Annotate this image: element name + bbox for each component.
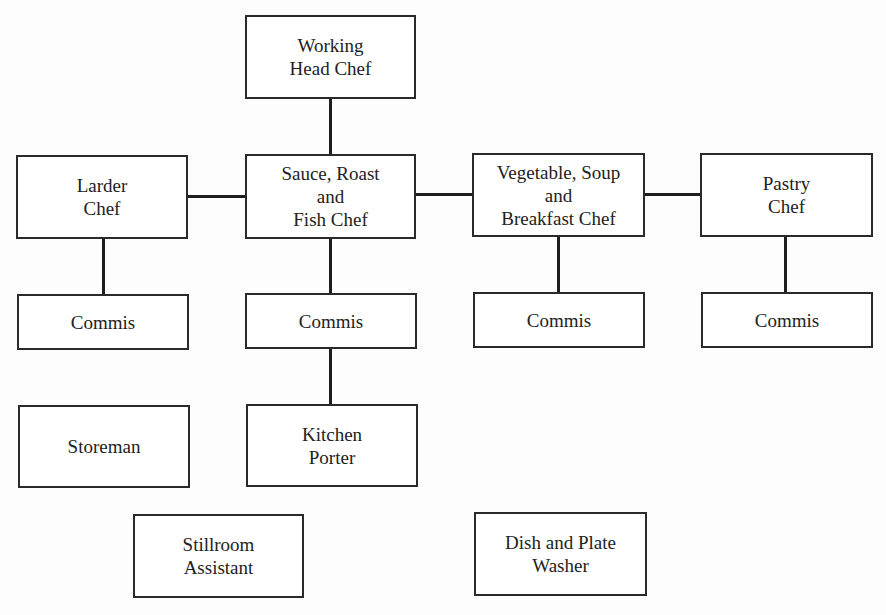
- connector-commis-to-kitchen-porter: [329, 348, 332, 405]
- connector-larder-to-sauce: [187, 195, 246, 198]
- node-label: Pastry Chef: [763, 172, 811, 218]
- node-commis-pastry: Commis: [701, 292, 873, 348]
- node-label: Commis: [71, 311, 135, 334]
- node-label: Storeman: [68, 435, 141, 458]
- kitchen-brigade-org-chart: Working Head Chef Larder Chef Sauce, Roa…: [0, 0, 886, 615]
- node-label: Working Head Chef: [290, 34, 372, 80]
- node-larder-chef: Larder Chef: [16, 155, 188, 239]
- node-label: Vegetable, Soup and Breakfast Chef: [497, 161, 620, 230]
- node-stillroom-assistant: Stillroom Assistant: [133, 514, 304, 598]
- node-label: Larder Chef: [77, 174, 128, 220]
- connector-pastry-to-commis: [784, 236, 787, 293]
- node-kitchen-porter: Kitchen Porter: [246, 404, 418, 487]
- node-dish-plate-washer: Dish and Plate Washer: [474, 512, 647, 596]
- connector-sauce-to-commis: [329, 238, 332, 294]
- connector-vegetable-to-commis: [557, 236, 560, 293]
- node-storeman: Storeman: [18, 405, 190, 488]
- connector-sauce-to-vegetable: [415, 193, 473, 196]
- connector-vegetable-to-pastry: [644, 193, 701, 196]
- node-sauce-roast-fish-chef: Sauce, Roast and Fish Chef: [245, 154, 416, 239]
- connector-larder-to-commis: [102, 238, 105, 295]
- node-label: Stillroom Assistant: [183, 533, 255, 579]
- node-commis-sauce: Commis: [245, 293, 417, 349]
- node-label: Commis: [527, 309, 591, 332]
- node-label: Commis: [299, 310, 363, 333]
- node-working-head-chef: Working Head Chef: [245, 15, 416, 99]
- node-label: Commis: [755, 309, 819, 332]
- connector-head-to-sauce: [329, 98, 332, 155]
- node-commis-larder: Commis: [17, 294, 189, 350]
- node-label: Dish and Plate Washer: [505, 531, 616, 577]
- node-pastry-chef: Pastry Chef: [700, 153, 873, 237]
- node-label: Kitchen Porter: [302, 423, 362, 469]
- node-label: Sauce, Roast and Fish Chef: [281, 162, 379, 231]
- node-commis-vegetable: Commis: [473, 292, 645, 348]
- node-vegetable-soup-breakfast-chef: Vegetable, Soup and Breakfast Chef: [472, 153, 645, 237]
